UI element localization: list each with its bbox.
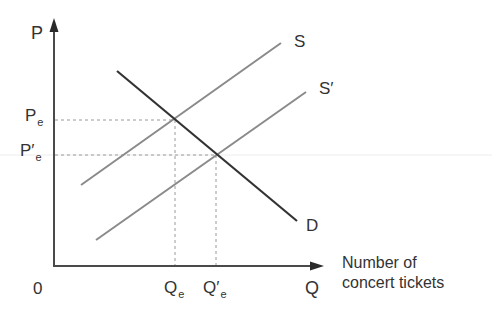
curve-label-d: D <box>306 217 318 234</box>
curve-label-s: S <box>294 33 305 50</box>
pe-prime-subscript: e <box>36 151 42 163</box>
x-axis-label: Q <box>305 279 319 297</box>
origin-label-text: 0 <box>33 279 42 298</box>
demand-curve-d <box>117 71 297 221</box>
origin-label: 0 <box>33 280 42 297</box>
y-axis-label-text: P <box>31 23 43 43</box>
qe-prime-main: Q <box>203 278 216 297</box>
supply-curve-s <box>81 43 281 185</box>
qe-prime-subscript: e <box>220 288 226 300</box>
y-axis-label: P <box>31 24 43 42</box>
y-axis-arrow-icon <box>50 18 59 32</box>
pe-prime-main: P <box>20 141 31 160</box>
supply-curve-s-prime <box>96 92 306 240</box>
price-label-pe-prime: P′e <box>20 142 42 159</box>
quantity-label-qe: Qe <box>164 279 184 296</box>
x-axis-title: Number of concert tickets <box>342 253 444 293</box>
curve-label-d-text: D <box>306 216 318 235</box>
price-label-pe: Pe <box>25 107 43 124</box>
x-axis-label-text: Q <box>305 278 319 298</box>
pe-main: P <box>25 106 36 125</box>
qe-main: Q <box>164 278 177 297</box>
x-axis-title-line1: Number of <box>342 253 444 273</box>
qe-subscript: e <box>178 288 184 300</box>
curve-label-s-text: S <box>294 32 305 51</box>
curve-label-s-prime: S′ <box>319 80 334 97</box>
pe-prime-prime-mark: ′ <box>31 141 34 160</box>
x-axis-title-line2: concert tickets <box>342 273 444 293</box>
quantity-label-qe-prime: Q′e <box>203 279 227 296</box>
curve-label-s-prime-mark: ′ <box>330 79 333 98</box>
x-axis-arrow-icon <box>310 262 324 271</box>
qe-prime-prime-mark: ′ <box>216 278 219 297</box>
curve-label-s-prime-text: S <box>319 79 330 98</box>
pe-subscript: e <box>37 116 43 128</box>
